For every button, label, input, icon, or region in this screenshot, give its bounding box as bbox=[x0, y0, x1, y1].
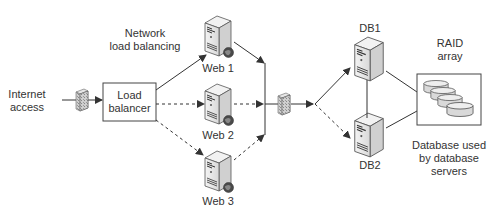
network-load-balancing-label: Network load balancing bbox=[105, 27, 185, 53]
web3-server-icon bbox=[205, 151, 234, 193]
firewall2-icon bbox=[278, 93, 290, 115]
db1-label: DB1 bbox=[350, 22, 390, 35]
internet-label-line1: Internet bbox=[2, 88, 52, 101]
web1-label: Web 1 bbox=[198, 62, 238, 75]
db-used-line2: by database bbox=[408, 152, 490, 165]
load-balancer-label: Load balancer bbox=[103, 89, 156, 115]
db2-label: DB2 bbox=[350, 159, 390, 172]
internet-label-line2: access bbox=[2, 101, 52, 114]
web1-server-icon bbox=[205, 16, 234, 58]
db2-server-icon bbox=[355, 113, 383, 157]
internet-access-label: Internet access bbox=[2, 88, 52, 114]
raid-line2: array bbox=[425, 50, 475, 63]
db-used-line1: Database used bbox=[408, 139, 490, 152]
db-used-line3: servers bbox=[408, 165, 490, 178]
edge-lb-web3 bbox=[156, 120, 203, 155]
web3-label: Web 3 bbox=[198, 195, 238, 208]
raid-array-label: RAID array bbox=[425, 37, 475, 63]
database-used-label: Database used by database servers bbox=[408, 139, 490, 178]
edge-db2-raid bbox=[386, 111, 417, 128]
web2-server-icon bbox=[205, 84, 234, 126]
network-lb-line2: load balancing bbox=[105, 40, 185, 53]
edge-web1-bus bbox=[234, 42, 264, 63]
network-diagram bbox=[0, 0, 504, 214]
edge-junction-db2 bbox=[315, 104, 350, 138]
load-balancer-line2: balancer bbox=[103, 102, 156, 115]
firewall1-icon bbox=[76, 89, 88, 111]
edge-junction-db1 bbox=[315, 68, 350, 104]
web2-label: Web 2 bbox=[198, 129, 238, 142]
edge-db1-raid bbox=[386, 71, 417, 92]
network-lb-line1: Network bbox=[105, 27, 185, 40]
raid-line1: RAID bbox=[425, 37, 475, 50]
edge-web3-bus bbox=[234, 135, 264, 160]
load-balancer-line1: Load bbox=[103, 89, 156, 102]
db1-server-icon bbox=[355, 37, 383, 81]
